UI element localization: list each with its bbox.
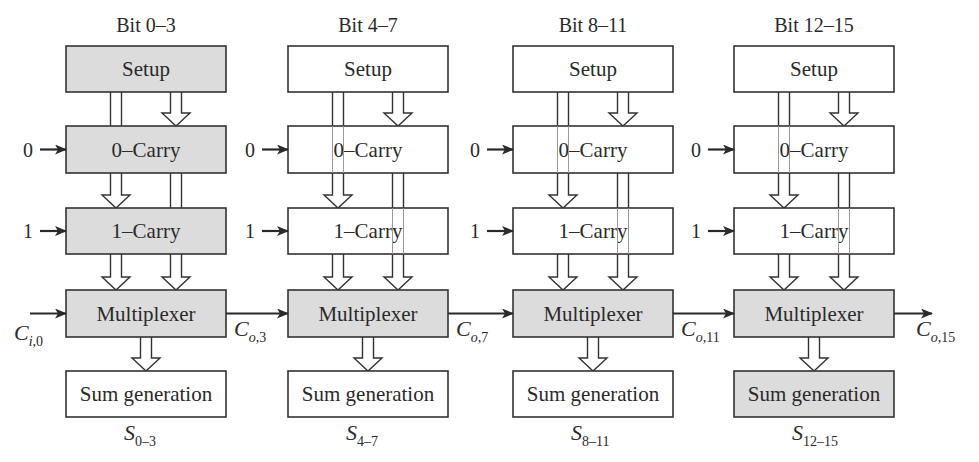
carry-out-label-final: Co,15	[916, 316, 955, 345]
carry1-to-mux-right-arrow	[162, 254, 190, 290]
carry1-input-label: 1	[23, 220, 33, 242]
sum-output-label: S0–3	[124, 420, 156, 449]
mux-label: Multiplexer	[318, 302, 417, 326]
carry0-input-label: 0	[691, 139, 701, 161]
carry0-input-label: 0	[23, 139, 33, 161]
carry1-to-mux-left-arrow	[102, 254, 130, 290]
setup-label: Setup	[344, 57, 392, 81]
sum-block: Sum generation	[734, 371, 894, 417]
stage-0: Bit 0–3Setup0–Carry1–CarryMultiplexerSum…	[23, 14, 226, 449]
carry-out-label-0: Co,3	[234, 316, 266, 345]
mux-label: Multiplexer	[543, 302, 642, 326]
carry0-to-carry1-arrow	[102, 173, 130, 208]
carry-out-label-2: Co,11	[681, 316, 720, 345]
setup-to-carry0-arrow	[830, 92, 858, 126]
mux-to-sum-arrow	[800, 337, 828, 371]
sum-label: Sum generation	[527, 382, 660, 406]
carry0-pass-arrow	[171, 173, 182, 208]
carry1-input-label: 1	[691, 220, 701, 242]
sum-output-label: S12–15	[792, 420, 838, 449]
mux-label: Multiplexer	[764, 302, 863, 326]
sum-block: Sum generation	[66, 371, 226, 417]
carry-select-adder-diagram: Bit 0–3Setup0–Carry1–CarryMultiplexerSum…	[0, 0, 979, 462]
carry-out-label-1: Co,7	[456, 316, 488, 345]
stage-title: Bit 0–3	[116, 14, 175, 36]
carry0-block: 0–Carry	[513, 126, 673, 173]
carry0-input-label: 0	[245, 139, 255, 161]
sum-block: Sum generation	[513, 371, 673, 417]
carry0-label: 0–Carry	[112, 138, 181, 162]
sum-label: Sum generation	[302, 382, 435, 406]
setup-to-carry0-arrow	[609, 92, 637, 126]
carry1-block: 1–Carry	[288, 208, 448, 254]
mux-to-sum-arrow	[132, 337, 160, 371]
carry0-input-label: 0	[470, 139, 480, 161]
sum-block: Sum generation	[288, 371, 448, 417]
setup-to-carry0-arrow	[384, 92, 412, 126]
carry1-block: 1–Carry	[66, 208, 226, 254]
stage-title: Bit 12–15	[774, 14, 853, 36]
setup-block: Setup	[513, 46, 673, 92]
sum-output-label: S4–7	[346, 420, 378, 449]
mux-block: Multiplexer	[513, 290, 673, 337]
carry1-input-label: 1	[245, 220, 255, 242]
stage-title: Bit 4–7	[338, 14, 397, 36]
carry1-block: 1–Carry	[734, 208, 894, 254]
carry1-block: 1–Carry	[513, 208, 673, 254]
carry1-input-label: 1	[470, 220, 480, 242]
carry0-block: 0–Carry	[66, 126, 226, 173]
carry1-to-mux-left-arrow	[324, 254, 352, 290]
sum-output-label: S8–11	[571, 420, 609, 449]
carry0-block: 0–Carry	[734, 126, 894, 173]
sum-label: Sum generation	[748, 382, 881, 406]
carry1-to-mux-left-arrow	[549, 254, 577, 290]
mux-block: Multiplexer	[734, 290, 894, 337]
carry1-label: 1–Carry	[112, 219, 181, 243]
stage-3: Bit 12–15Setup0–Carry1–CarryMultiplexerS…	[691, 14, 894, 449]
setup-block: Setup	[288, 46, 448, 92]
mux-block: Multiplexer	[288, 290, 448, 337]
stage-title: Bit 8–11	[559, 14, 628, 36]
setup-label: Setup	[569, 57, 617, 81]
carry1-to-mux-left-arrow	[770, 254, 798, 290]
mux-block: Multiplexer	[66, 290, 226, 337]
setup-pass-arrow	[111, 92, 122, 126]
carry-in-label: Ci,0	[14, 320, 43, 349]
stage-1: Bit 4–7Setup0–Carry1–CarryMultiplexerSum…	[245, 14, 448, 449]
setup-to-carry0-arrow	[162, 92, 190, 126]
mux-to-sum-arrow	[579, 337, 607, 371]
setup-label: Setup	[790, 57, 838, 81]
setup-block: Setup	[66, 46, 226, 92]
sum-label: Sum generation	[80, 382, 213, 406]
carry0-block: 0–Carry	[288, 126, 448, 173]
setup-block: Setup	[734, 46, 894, 92]
mux-label: Multiplexer	[96, 302, 195, 326]
setup-label: Setup	[122, 57, 170, 81]
stage-2: Bit 8–11Setup0–Carry1–CarryMultiplexerSu…	[470, 14, 673, 449]
mux-to-sum-arrow	[354, 337, 382, 371]
